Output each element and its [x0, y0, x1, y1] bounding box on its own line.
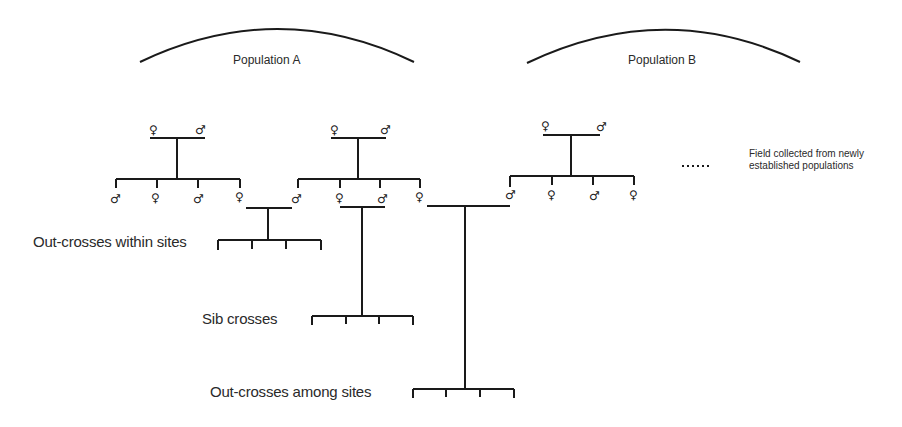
male-symbol-icon: ♂	[291, 193, 302, 205]
female-symbol-icon: ♀	[151, 192, 160, 204]
female-symbol-icon: ♀	[541, 120, 550, 132]
female-symbol-icon: ♀	[330, 124, 339, 136]
female-symbol-icon: ♀	[235, 191, 244, 203]
pedigree-lines	[0, 0, 902, 427]
population-b-label: Population B	[628, 53, 696, 67]
female-symbol-icon: ♀	[547, 189, 556, 201]
male-symbol-icon: ♂	[505, 189, 516, 201]
male-symbol-icon: ♂	[596, 121, 607, 133]
legend-note-line2: established populations	[749, 160, 864, 172]
legend-note: Field collected from newly established p…	[749, 148, 864, 172]
male-symbol-icon: ♂	[380, 124, 391, 136]
male-symbol-icon: ♂	[193, 193, 204, 205]
female-symbol-icon: ♀	[415, 191, 424, 203]
male-symbol-icon: ♂	[195, 124, 206, 136]
sib-crosses-label: Sib crosses	[202, 310, 277, 327]
population-a-label: Population A	[233, 53, 300, 67]
legend-note-line1: Field collected from newly	[749, 148, 864, 160]
male-symbol-icon: ♂	[377, 193, 388, 205]
among-sites-label: Out-crosses among sites	[210, 383, 371, 400]
male-symbol-icon: ♂	[589, 190, 600, 202]
male-symbol-icon: ♂	[110, 193, 121, 205]
female-symbol-icon: ♀	[335, 192, 344, 204]
female-symbol-icon: ♀	[629, 189, 638, 201]
within-sites-label: Out-crosses within sites	[33, 233, 187, 250]
female-symbol-icon: ♀	[149, 124, 158, 136]
